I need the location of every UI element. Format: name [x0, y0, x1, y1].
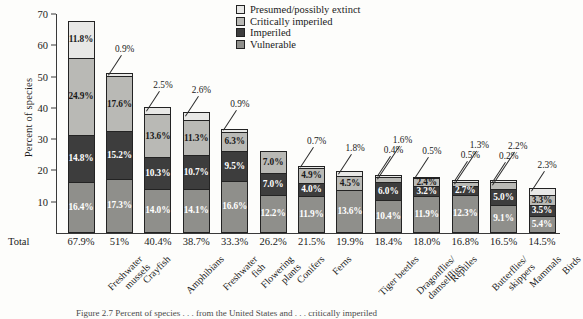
bar-segment[interactable]: 6.3% — [221, 132, 248, 152]
category-label-line: Birds — [560, 254, 583, 277]
bar-segment[interactable]: 17.3% — [106, 179, 133, 233]
segment-value-label: 3.3% — [532, 196, 553, 205]
total-value: 40.4% — [144, 236, 171, 247]
bar-segment[interactable]: 11.3% — [183, 120, 210, 155]
x-axis-category-label: Birds — [560, 254, 583, 277]
bar-column[interactable]: 3.3%3.5%5.4% — [529, 188, 556, 233]
total-value: 51% — [110, 236, 129, 247]
bar-segment[interactable]: 4.0% — [298, 183, 325, 196]
bar-column[interactable]: 2.7%12.3% — [452, 180, 479, 233]
segment-value-label: 3.2% — [416, 187, 437, 196]
segment-callout-label: 0.5% — [422, 146, 441, 156]
bar-segment[interactable]: 24.9% — [68, 58, 95, 136]
bar-column[interactable]: 13.6%10.3%14.0% — [144, 107, 171, 233]
bar-segment[interactable]: 13.6% — [336, 190, 363, 233]
segment-callout-label: 2.6% — [192, 85, 211, 95]
bar-segment[interactable]: 12.3% — [452, 195, 479, 233]
bar-segment[interactable]: 9.1% — [490, 205, 517, 233]
bar-segment[interactable]: 12.2% — [260, 195, 287, 233]
totals-row-label: Total — [8, 236, 29, 247]
bar-segment[interactable]: 6.0% — [375, 182, 402, 201]
bar-segment[interactable]: 16.6% — [221, 181, 248, 233]
y-axis-tick-label: 30 — [38, 134, 49, 145]
bar-column[interactable]: 11.8%24.9%14.8%16.4% — [68, 21, 95, 233]
bar-segment[interactable]: 17.6% — [106, 76, 133, 131]
y-axis-tick-label: 20 — [38, 165, 49, 176]
bar-column[interactable]: 6.3%9.5%16.6% — [221, 129, 248, 233]
bar-segment[interactable]: 5.4% — [529, 216, 556, 233]
total-value: 21.5% — [298, 236, 325, 247]
segment-value-label: 24.9% — [68, 92, 93, 101]
bar-segment[interactable]: 10.7% — [183, 155, 210, 188]
legend-item[interactable]: Vulnerable — [236, 39, 361, 51]
segment-callout-label: 1.8% — [345, 143, 364, 153]
category-label-line: Tiger beetles — [377, 254, 421, 298]
bar-segment[interactable]: 4.9% — [298, 168, 325, 183]
bar-column[interactable]: 2.4%3.2%11.9% — [413, 177, 440, 233]
bar-segment[interactable]: 7.0% — [260, 173, 287, 195]
segment-callout-label: 0.7% — [307, 136, 326, 146]
segment-value-label: 11.9% — [414, 210, 439, 219]
category-label-line: Crayfish — [141, 254, 173, 286]
bar-segment[interactable]: 3.3% — [529, 195, 556, 205]
bar-column[interactable]: 4.9%4.0%11.9% — [298, 166, 325, 233]
y-axis-tick-label: 40 — [38, 102, 49, 113]
segment-value-label: 3.5% — [532, 206, 553, 215]
segment-value-label: 4.5% — [340, 179, 361, 188]
segment-value-label: 10.3% — [145, 169, 170, 178]
x-axis-line — [56, 233, 560, 234]
callout-leader-line — [300, 147, 314, 168]
bar-segment[interactable]: 14.1% — [183, 189, 210, 233]
total-value: 16.5% — [490, 236, 517, 247]
legend-item[interactable]: Imperiled — [236, 27, 361, 39]
bar-segment[interactable]: 7.0% — [260, 151, 287, 173]
bar-segment[interactable]: 2.7% — [452, 186, 479, 194]
bar-column[interactable]: 17.6%15.2%17.3% — [106, 73, 133, 233]
y-axis-tick-label: 10 — [38, 196, 49, 207]
segment-value-label: 12.2% — [261, 209, 286, 218]
total-value: 14.5% — [528, 236, 555, 247]
legend-label: Presumed/possibly extinct — [250, 4, 361, 15]
legend-label: Vulnerable — [250, 39, 296, 50]
bar-segment[interactable]: 10.3% — [144, 157, 171, 189]
legend-label: Critically imperiled — [250, 16, 333, 27]
bar-segment[interactable]: 3.5% — [529, 205, 556, 216]
legend-swatch-icon — [236, 40, 245, 49]
bar-column[interactable]: 6.0%10.4% — [375, 175, 402, 233]
segment-value-label: 9.5% — [224, 162, 245, 171]
bar-segment[interactable]: 13.6% — [144, 114, 171, 157]
bar-segment[interactable]: 11.8% — [68, 21, 95, 58]
segment-value-label: 6.0% — [378, 187, 399, 196]
callout-leader-line — [223, 110, 237, 131]
total-value: 18.4% — [375, 236, 402, 247]
x-axis-category-labels: FreshwatermusselsCrayfishAmphibiansFresh… — [0, 252, 574, 312]
y-axis-tick-label: 60 — [38, 40, 49, 51]
bar-segment[interactable]: 11.9% — [298, 196, 325, 233]
segment-value-label: 16.6% — [222, 202, 247, 211]
legend-item[interactable]: Critically imperiled — [236, 16, 361, 28]
bar-segment[interactable]: 4.5% — [336, 176, 363, 190]
bar-segment[interactable]: 14.0% — [144, 189, 171, 233]
bar-column[interactable]: 7.0%7.0%12.2% — [260, 151, 287, 233]
bar-segment[interactable]: 16.4% — [68, 182, 95, 233]
x-axis-category-label: Amphibians — [184, 254, 226, 296]
figure-caption: Figure 2.7 Percent of species . . . from… — [76, 308, 506, 318]
bar-segment[interactable]: 9.5% — [221, 151, 248, 181]
segment-value-label: 11.3% — [184, 134, 209, 143]
bar-column[interactable]: 5.0%9.1% — [490, 180, 517, 233]
bar-column[interactable]: 4.5%13.6% — [336, 171, 363, 233]
bar-segment[interactable]: 5.0% — [490, 189, 517, 205]
bar-segment[interactable]: 2.4% — [413, 178, 440, 186]
legend-swatch-icon — [236, 28, 245, 37]
bar-segment[interactable]: 14.8% — [68, 135, 95, 181]
bar-column[interactable]: 11.3%10.7%14.1% — [183, 112, 210, 233]
total-value: 16.8% — [452, 236, 479, 247]
bar-segment[interactable]: 3.2% — [413, 186, 440, 196]
bar-segment[interactable]: 11.9% — [413, 196, 440, 233]
bar-segment[interactable]: 15.2% — [106, 131, 133, 179]
legend-label: Imperiled — [250, 27, 291, 38]
bar-segment[interactable]: 10.4% — [375, 200, 402, 233]
legend-item[interactable]: Presumed/possibly extinct — [236, 4, 361, 16]
segment-value-label: 12.3% — [453, 209, 478, 218]
y-axis-tick-label: 50 — [38, 71, 49, 82]
